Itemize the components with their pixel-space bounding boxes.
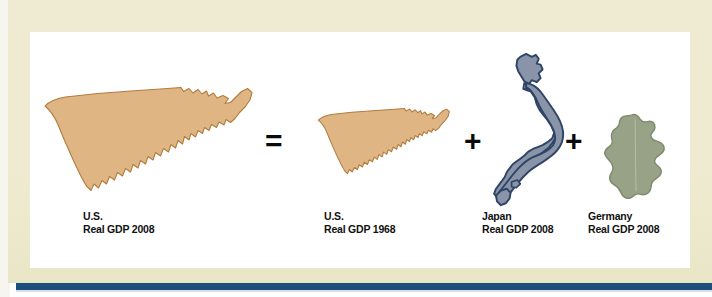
infographic-page: U.S. Real GDP 2008 = U.S. Real GDP 1968 …	[0, 0, 712, 297]
caption-us-2008: U.S. Real GDP 2008	[83, 210, 154, 236]
united-states-map-icon	[38, 78, 253, 203]
caption-country: Germany	[588, 210, 632, 222]
caption-country: Japan	[482, 210, 511, 222]
figure-us-1968: U.S. Real GDP 1968	[300, 102, 460, 218]
bottom-navy-rule	[16, 283, 712, 290]
caption-japan: Japan Real GDP 2008	[482, 210, 553, 236]
caption-measure: Real GDP 2008	[482, 223, 553, 236]
caption-germany: Germany Real GDP 2008	[588, 210, 659, 236]
germany-map-icon	[598, 112, 676, 204]
caption-measure: Real GDP 1968	[324, 223, 395, 236]
caption-measure: Real GDP 2008	[588, 223, 659, 236]
caption-us-1968: U.S. Real GDP 1968	[324, 210, 395, 236]
figure-germany: Germany Real GDP 2008	[588, 112, 688, 218]
figure-us-2008: U.S. Real GDP 2008	[30, 78, 260, 218]
bottom-navy-rule-shadow	[16, 290, 712, 292]
caption-country: U.S.	[83, 210, 103, 222]
plus-sign-2: +	[565, 126, 583, 156]
united-states-map-icon	[314, 102, 450, 182]
equals-sign: =	[265, 126, 283, 156]
japan-map-icon	[490, 52, 568, 212]
figure-japan: Japan Real GDP 2008	[482, 52, 578, 218]
caption-measure: Real GDP 2008	[83, 223, 154, 236]
caption-country: U.S.	[324, 210, 344, 222]
plus-sign-1: +	[464, 126, 482, 156]
